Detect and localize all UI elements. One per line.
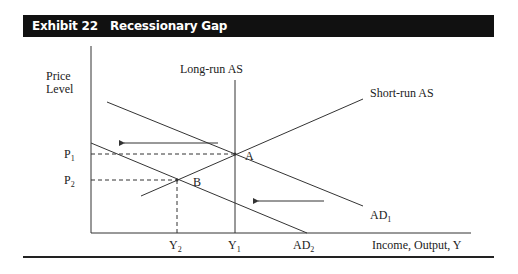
point-b-label: B xyxy=(193,175,201,189)
ad2-label: AD2 xyxy=(293,238,314,254)
sras-label: Short-run AS xyxy=(370,86,434,100)
recessionary-gap-diagram: Price Level Long-run AS Short-run AS AD1… xyxy=(0,0,518,274)
p2-label: P2 xyxy=(64,173,75,189)
point-a-dot xyxy=(234,153,237,156)
y-axis-label-line1: Price xyxy=(46,69,71,83)
y2-label: Y2 xyxy=(169,238,182,254)
ad1-label: AD1 xyxy=(370,208,391,224)
x-axis-label: Income, Output, Y xyxy=(372,238,462,252)
y-axis-label-line2: Level xyxy=(46,82,74,96)
point-b-dot xyxy=(176,179,179,182)
lras-label: Long-run AS xyxy=(180,62,243,76)
p1-label: P1 xyxy=(64,147,75,163)
bottom-rule xyxy=(23,256,494,258)
y1-label: Y1 xyxy=(228,238,241,254)
sras-line xyxy=(141,99,363,196)
point-a-label: A xyxy=(245,149,254,163)
